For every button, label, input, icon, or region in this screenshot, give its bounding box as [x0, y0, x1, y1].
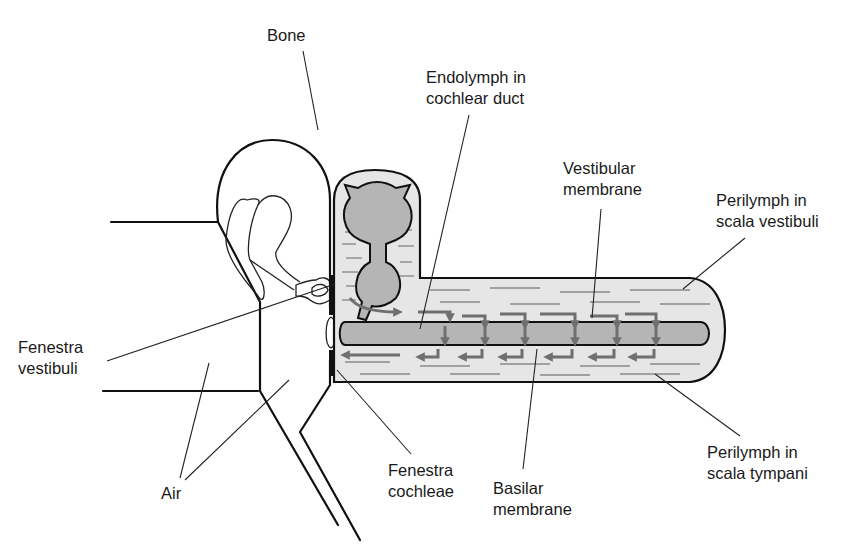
label-basilar-membrane: Basilar membrane	[493, 478, 572, 520]
label-air: Air	[161, 483, 181, 504]
label-perilymph-scala-vestibuli: Perilymph in scala vestibuli	[716, 190, 819, 232]
label-vestibular-membrane: Vestibular membrane	[563, 158, 642, 200]
cochlea	[334, 170, 725, 382]
label-endolymph-cochlear-duct: Endolymph in cochlear duct	[426, 67, 526, 109]
label-fenestra-cochleae: Fenestra cochleae	[388, 460, 454, 502]
label-bone: Bone	[267, 25, 306, 46]
middle-ear-outline	[103, 140, 360, 540]
leader-lines	[107, 51, 745, 480]
ossicles	[226, 196, 330, 304]
label-fenestra-vestibuli: Fenestra vestibuli	[18, 337, 83, 379]
label-perilymph-scala-tympani: Perilymph in scala tympani	[707, 442, 808, 484]
